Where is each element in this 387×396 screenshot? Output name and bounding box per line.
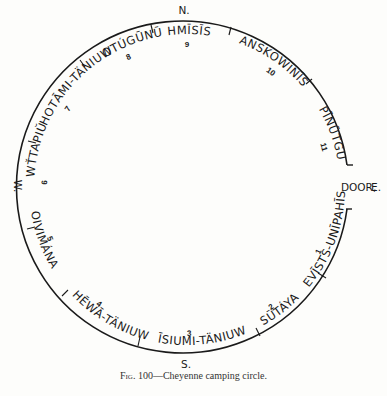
band-label-10: ANSKOWĪNĪS bbox=[238, 33, 312, 90]
band-label-7: HOTĀMI-TÄNIUW bbox=[37, 43, 116, 127]
direction-south: S. bbox=[181, 358, 191, 370]
band-number-9: 9 bbox=[185, 40, 190, 49]
band-label-5: OIVIMÁNA bbox=[28, 210, 62, 271]
camping-circle-diagram: WŤTAPIŬ HOTĀMI-TÄNIUW OTÚGŪNŪ HMĪSĪS ANS… bbox=[0, 0, 387, 396]
lower-band-labels: OIVIMÁNA HĒWĀ-TÄNIUW ĪSIUMI-TÄNIUW SŪTÁY… bbox=[28, 190, 348, 348]
band-number-10: 10 bbox=[265, 65, 278, 78]
band-label-11: PĪNŪTGU bbox=[316, 104, 348, 162]
direction-north: N. bbox=[178, 4, 189, 16]
band-label-8: OTÚGŪNŪ bbox=[99, 25, 163, 60]
figure-caption-text: —Cheyenne camping circle. bbox=[153, 370, 267, 381]
direction-west: W. bbox=[12, 180, 24, 193]
band-number-3: 3 bbox=[187, 329, 192, 338]
band-label-9: HMĪSĪS bbox=[167, 23, 212, 39]
band-number-6: 6 bbox=[40, 180, 49, 185]
figure-caption: Fig. 100—Cheyenne camping circle. bbox=[0, 370, 387, 381]
direction-east: E. bbox=[371, 181, 381, 193]
figure-number: Fig. 100 bbox=[120, 370, 153, 381]
band-label-4: HĒWĀ-TÄNIUW bbox=[70, 287, 151, 343]
band-number-7: 7 bbox=[63, 104, 73, 113]
band-number-11: 11 bbox=[318, 142, 329, 153]
band-number-8: 8 bbox=[125, 52, 133, 62]
